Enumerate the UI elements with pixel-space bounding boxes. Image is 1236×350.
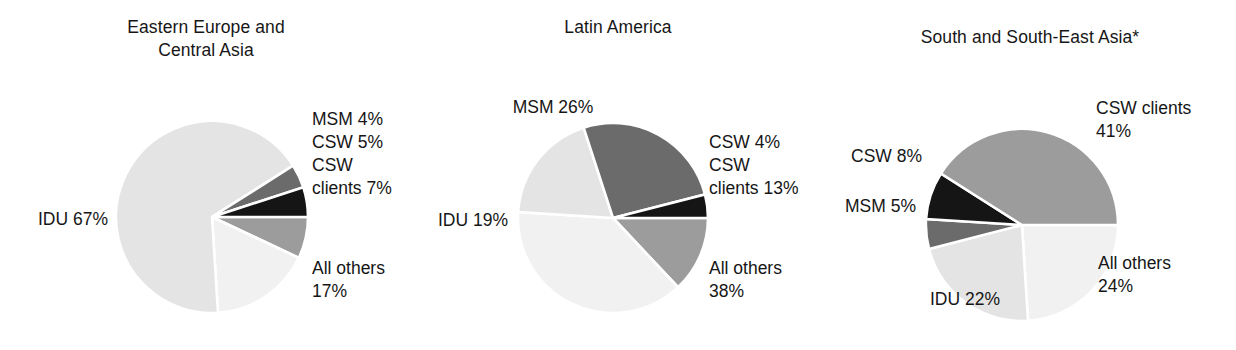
slice-label-csw: CSW 5% <box>312 131 383 154</box>
slice-label-idu: IDU 22% <box>824 288 1000 311</box>
slice-label-idu: IDU 19% <box>412 209 508 232</box>
slice-label-all-others: All others 38% <box>709 257 782 303</box>
slice-label-csw-clients: CSW clients 41% <box>1096 97 1191 143</box>
slice-label-all-others: All others 17% <box>312 257 385 303</box>
slice-label-csw: CSW 8% <box>824 145 922 168</box>
slice-label-msm: MSM 5% <box>824 195 916 218</box>
pie-chart-figure: Eastern Europe and Central Asia MSM 4% C… <box>0 0 1236 350</box>
slice-label-csw-clients: CSW clients 7% <box>312 154 392 200</box>
slice-label-csw-clients: CSW clients 13% <box>709 154 799 200</box>
slice-label-csw: CSW 4% <box>709 131 780 154</box>
chart-panel-south-and-south-east-asia: South and South-East Asia* CSW clients 4… <box>824 0 1236 350</box>
slice-label-msm: MSM 26% <box>468 96 638 119</box>
chart-panel-eastern-europe-central-asia: Eastern Europe and Central Asia MSM 4% C… <box>0 0 412 350</box>
chart-panel-latin-america: Latin America MSM 26% CSW 4% CSW clients… <box>412 0 824 350</box>
slice-label-all-others: All others 24% <box>1098 252 1171 298</box>
slice-label-msm: MSM 4% <box>312 108 383 131</box>
slice-label-idu: IDU 67% <box>0 208 108 231</box>
